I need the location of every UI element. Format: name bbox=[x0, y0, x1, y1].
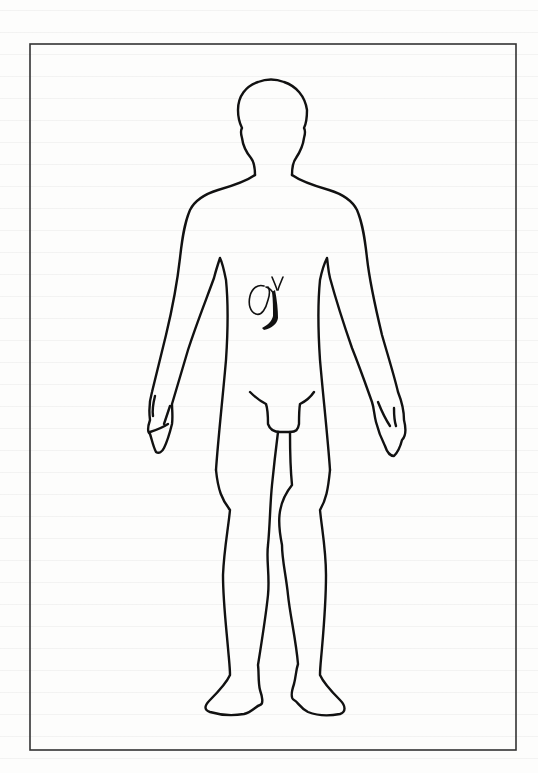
groin-outline bbox=[250, 392, 314, 432]
gallbladder-sac bbox=[249, 285, 269, 314]
right-hand-finger-line bbox=[378, 402, 390, 426]
right-arm-outline bbox=[292, 175, 405, 470]
left-leg-outline bbox=[206, 432, 279, 715]
body-diagram bbox=[0, 0, 538, 773]
diagram-frame bbox=[30, 44, 516, 750]
right-hand-finger-line-2 bbox=[394, 408, 396, 426]
body-outline bbox=[148, 80, 405, 716]
hepatic-duct-right bbox=[278, 277, 283, 290]
head-outline bbox=[238, 80, 307, 175]
left-hand-finger-line bbox=[153, 396, 155, 416]
left-hand-thumb-line bbox=[150, 424, 168, 432]
left-hand-finger-line-2 bbox=[164, 406, 170, 424]
gallbladder-icon bbox=[249, 277, 283, 330]
scanned-page: gallbladder bbox=[0, 0, 538, 773]
right-leg-outline bbox=[279, 432, 344, 715]
hepatic-duct-left bbox=[272, 277, 277, 290]
